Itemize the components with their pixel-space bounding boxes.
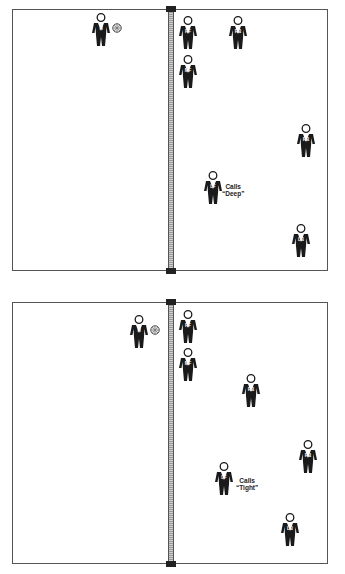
player-h: H bbox=[129, 315, 149, 349]
player-label: RB bbox=[298, 453, 318, 458]
call-line2: “Deep” bbox=[222, 190, 244, 197]
player-rb: RB bbox=[241, 374, 261, 408]
player-label: MF bbox=[178, 68, 198, 73]
player-lb: LB bbox=[291, 224, 311, 258]
player-mf: MF bbox=[178, 55, 198, 89]
net-bottom bbox=[168, 302, 174, 564]
player-rf: RF bbox=[178, 16, 198, 50]
volleyball-icon bbox=[112, 23, 122, 33]
player-rf: RF bbox=[178, 310, 198, 344]
player-rb: RB bbox=[298, 440, 318, 474]
call-text-bottom: Calls “Tight” bbox=[236, 477, 258, 491]
ball bbox=[150, 321, 160, 331]
player-rb: RB bbox=[228, 16, 248, 50]
player-label: LF bbox=[214, 475, 234, 480]
player-label: H bbox=[129, 328, 149, 333]
net-post-top-upper bbox=[166, 6, 176, 12]
player-label: RB bbox=[241, 387, 261, 392]
player-label: RB bbox=[228, 29, 248, 34]
call-text-top: Calls “Deep” bbox=[222, 183, 244, 197]
player-lf: LF bbox=[203, 171, 223, 205]
ball bbox=[112, 19, 122, 29]
call-line2: “Tight” bbox=[236, 484, 258, 491]
net-post-bottom-upper bbox=[166, 299, 176, 305]
player-label: LB bbox=[291, 237, 311, 242]
player-h: H bbox=[91, 13, 111, 47]
player-label: LF bbox=[203, 184, 223, 189]
player-lb: LB bbox=[280, 513, 300, 547]
player-label: RB bbox=[296, 137, 316, 142]
player-mf: MF bbox=[178, 348, 198, 382]
call-line1: Calls bbox=[222, 183, 244, 190]
net-post-bottom-lower bbox=[166, 561, 176, 567]
player-label: RF bbox=[178, 323, 198, 328]
player-lf: LF bbox=[214, 462, 234, 496]
player-label: MF bbox=[178, 361, 198, 366]
player-label: LB bbox=[280, 526, 300, 531]
net-top bbox=[168, 9, 174, 271]
player-label: H bbox=[91, 26, 111, 31]
call-line1: Calls bbox=[236, 477, 258, 484]
player-label: RF bbox=[178, 29, 198, 34]
player-rb: RB bbox=[296, 124, 316, 158]
volleyball-icon bbox=[150, 325, 160, 335]
net-post-top-lower bbox=[166, 268, 176, 274]
